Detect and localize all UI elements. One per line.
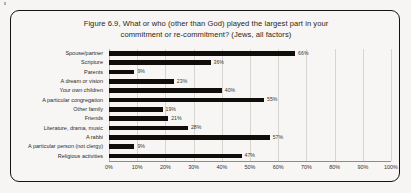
bar-value-label: 28% bbox=[191, 123, 201, 132]
bar-row: 47% bbox=[109, 152, 391, 161]
gridline-100% bbox=[391, 49, 392, 161]
bar-row: 19% bbox=[109, 105, 391, 114]
bar-row: 36% bbox=[109, 58, 391, 67]
bar-row: 66% bbox=[109, 49, 391, 58]
bar-series: 66%36%9%23%40%55%19%21%28%57%9%47% bbox=[109, 49, 391, 161]
bar bbox=[109, 116, 168, 121]
bar-value-label: 36% bbox=[214, 58, 224, 67]
bar-row: 21% bbox=[109, 114, 391, 123]
bar-value-label: 66% bbox=[298, 49, 308, 58]
category-label: A particular person (not clergy) bbox=[28, 142, 103, 151]
category-label: Religious activities bbox=[58, 152, 103, 161]
figure-inner: Figure 6.9, What or who (other than God)… bbox=[11, 11, 399, 181]
chart-title-line-1: Figure 6.9, What or who (other than God)… bbox=[37, 19, 375, 30]
x-tick-label: 70% bbox=[301, 163, 312, 172]
x-tick-label: 30% bbox=[188, 163, 199, 172]
category-label: Friends bbox=[85, 114, 103, 123]
category-axis-labels: Spouse/partnerScriptureParentsA dream or… bbox=[11, 49, 106, 161]
bar bbox=[109, 144, 134, 149]
bar bbox=[109, 88, 222, 93]
bar-value-label: 9% bbox=[137, 142, 145, 151]
category-label: Scripture bbox=[81, 58, 103, 67]
category-label: Other family bbox=[73, 105, 103, 114]
bar bbox=[109, 126, 188, 131]
bar-row: 9% bbox=[109, 68, 391, 77]
bar bbox=[109, 154, 242, 159]
x-tick-label: 90% bbox=[357, 163, 368, 172]
chart-title-line-2: commitment or re-commitment? (Jews, all … bbox=[37, 30, 375, 41]
x-axis-tick-labels: 0%10%20%30%40%50%60%70%80%90%100% bbox=[109, 163, 391, 175]
figure-frame: Figure 6.9, What or who (other than God)… bbox=[10, 10, 400, 182]
category-label: Spouse/partner bbox=[65, 49, 103, 58]
bar bbox=[109, 79, 174, 84]
bar-value-label: 19% bbox=[166, 105, 176, 114]
chart-title: Figure 6.9, What or who (other than God)… bbox=[37, 19, 375, 40]
x-tick-label: 0% bbox=[105, 163, 113, 172]
bar bbox=[109, 107, 163, 112]
bar-value-label: 9% bbox=[137, 67, 145, 76]
bar-row: 55% bbox=[109, 96, 391, 105]
bar bbox=[109, 51, 295, 56]
bar-value-label: 55% bbox=[267, 95, 277, 104]
x-axis-line bbox=[109, 161, 391, 162]
x-tick-label: 80% bbox=[329, 163, 340, 172]
plot-area: 66%36%9%23%40%55%19%21%28%57%9%47% bbox=[109, 49, 391, 161]
category-label: Your own children bbox=[59, 86, 103, 95]
bar-row: 40% bbox=[109, 86, 391, 95]
bar-value-label: 40% bbox=[225, 86, 235, 95]
bar-value-label: 21% bbox=[171, 114, 181, 123]
category-label: A rabbi bbox=[86, 133, 103, 142]
category-label: A dream or vision bbox=[61, 77, 104, 86]
bar-value-label: 47% bbox=[245, 151, 255, 160]
x-tick-label: 60% bbox=[273, 163, 284, 172]
bar bbox=[109, 135, 270, 140]
bar-row: 23% bbox=[109, 77, 391, 86]
bar bbox=[109, 60, 211, 65]
bar bbox=[109, 70, 134, 75]
document-page: Figure 6.9, What or who (other than God)… bbox=[0, 0, 411, 193]
category-label: A particular congregation bbox=[42, 96, 103, 105]
bar-row: 28% bbox=[109, 124, 391, 133]
x-tick-label: 40% bbox=[216, 163, 227, 172]
bar-row: 9% bbox=[109, 142, 391, 151]
x-tick-label: 20% bbox=[160, 163, 171, 172]
bar bbox=[109, 98, 264, 103]
scan-artifact bbox=[4, 2, 6, 5]
x-tick-label: 50% bbox=[245, 163, 256, 172]
category-label: Parents bbox=[84, 68, 103, 77]
category-label: Literature, drama, music bbox=[44, 124, 103, 133]
bar-row: 57% bbox=[109, 133, 391, 142]
bar-value-label: 57% bbox=[273, 133, 283, 142]
x-tick-label: 10% bbox=[132, 163, 143, 172]
bar-value-label: 23% bbox=[177, 77, 187, 86]
x-tick-label: 100% bbox=[384, 163, 398, 172]
